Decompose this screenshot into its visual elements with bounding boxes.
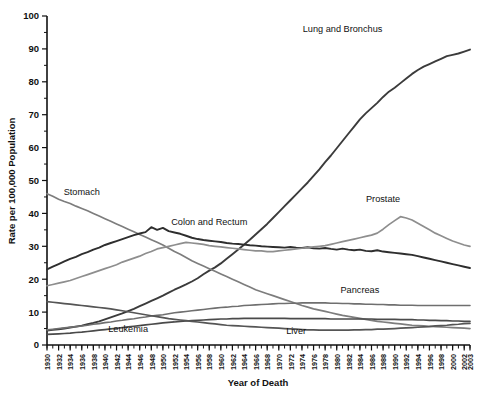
series-annotation-labels: Lung and BronchusStomachColon and Rectum… [64,24,401,335]
x-tick-label: 1936 [78,354,87,370]
x-tick-label: 1990 [391,354,400,370]
x-tick-label: 1950 [159,354,168,370]
plot-frame [47,16,470,345]
x-tick-label: 1996 [426,354,435,370]
y-tick-label: 70 [28,109,39,120]
x-tick-label: 1940 [101,354,110,370]
series-label-colon-and-rectum: Colon and Rectum [171,217,247,227]
x-tick-label: 1954 [182,354,191,370]
x-tick-label: 2003 [466,354,475,370]
series-line-prostate [47,217,470,286]
y-tick-label: 60 [28,142,39,153]
y-tick-label: 20 [28,274,39,285]
x-tick-label: 1976 [310,354,319,370]
figure-caption [0,392,494,401]
x-tick-label: 1964 [240,354,249,370]
x-tick-label: 1986 [368,354,377,370]
y-tick-label: 80 [28,76,39,87]
x-tick-label: 1974 [298,354,307,370]
x-tick-label: 1984 [356,354,365,370]
x-tick-label: 1944 [124,354,133,370]
x-tick-label: 1960 [217,354,226,370]
y-tick-label: 100 [23,10,39,21]
y-tick-label: 10 [28,307,39,318]
x-tick-label: 1972 [287,354,296,370]
x-tick-label: 1992 [402,354,411,370]
x-tick-label: 1962 [229,354,238,370]
y-axis-ticks: 0102030405060708090100 [23,10,47,350]
x-tick-label: 1932 [55,354,64,370]
y-tick-label: 40 [28,208,39,219]
series-label-lung-and-bronchus: Lung and Bronchus [303,24,383,34]
chart-figure: 0102030405060708090100 19301932193419361… [0,0,494,401]
x-axis-ticks: 1930193219341936193819401942194419461948… [43,345,475,370]
series-label-leukemia: Leukemia [108,324,149,334]
x-tick-label: 1988 [379,354,388,370]
x-tick-label: 1942 [113,354,122,370]
series-label-prostate: Prostate [366,194,400,204]
x-tick-label: 1970 [275,354,284,370]
x-tick-label: 1994 [414,354,423,370]
x-tick-label: 1982 [345,354,354,370]
x-tick-label: 1946 [136,354,145,370]
x-tick-label: 1938 [90,354,99,370]
series-label-pancreas: Pancreas [340,285,379,295]
x-tick-label: 1956 [194,354,203,370]
y-tick-label: 90 [28,43,39,54]
x-tick-label: 1930 [43,354,52,370]
y-axis-title: Rate per 100,000 Population [6,117,17,244]
series-label-liver: Liver [286,326,306,336]
x-tick-label: 1948 [148,354,157,370]
series-label-stomach: Stomach [64,187,100,197]
x-axis-title: Year of Death [228,377,289,388]
line-chart: 0102030405060708090100 19301932193419361… [0,0,494,401]
x-tick-label: 1952 [171,354,180,370]
x-tick-label: 1978 [321,354,330,370]
x-tick-label: 1998 [437,354,446,370]
x-tick-label: 1966 [252,354,261,370]
y-tick-label: 50 [28,175,39,186]
y-tick-label: 0 [34,339,39,350]
x-tick-label: 2000 [449,354,458,370]
series-line-colon-and-rectum [47,227,470,269]
y-tick-label: 30 [28,241,39,252]
x-tick-label: 1934 [66,354,75,370]
series-line-lung-and-bronchus [47,50,470,331]
x-tick-label: 1968 [263,354,272,370]
series-layer [47,50,470,335]
x-tick-label: 1980 [333,354,342,370]
x-tick-label: 1958 [205,354,214,370]
